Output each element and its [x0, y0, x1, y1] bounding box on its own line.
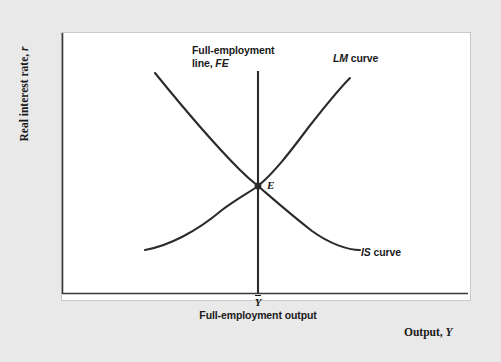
lm-curve-label-text: curve: [348, 52, 378, 64]
equilibrium-point-label: E: [267, 179, 274, 191]
lm-curve-label-variable: LM: [333, 52, 348, 64]
full-employment-output-tick-label: Y: [239, 296, 277, 308]
fe-line-label-line2: line,: [192, 57, 215, 69]
equilibrium-point-marker: [255, 183, 262, 190]
is-lm-fe-diagram: Real interest rate, r Full-employmentlin…: [0, 0, 501, 362]
y-bar-glyph: Y: [255, 296, 262, 308]
lm-curve: [145, 78, 350, 250]
is-curve-label: IS curve: [361, 246, 401, 258]
is-curve-label-text: curve: [371, 246, 401, 258]
y-axis-label: Real interest rate, r: [18, 34, 30, 154]
x-axis-label-text: Output,: [404, 326, 446, 338]
lm-curve-label: LM curve: [333, 52, 378, 64]
fe-line-label: Full-employmentline, FE: [192, 44, 275, 70]
y-axis-label-variable: r: [18, 47, 30, 51]
is-curve-label-variable: IS: [361, 246, 371, 258]
fe-line-label-line1: Full-employment: [192, 44, 275, 56]
fe-line-label-variable: FE: [215, 57, 228, 69]
x-axis-label-variable: Y: [446, 326, 453, 338]
full-employment-output-label: Full-employment output: [188, 309, 328, 321]
x-axis-label: Output, Y: [404, 326, 453, 338]
y-axis-label-text: Real interest rate,: [18, 51, 30, 141]
